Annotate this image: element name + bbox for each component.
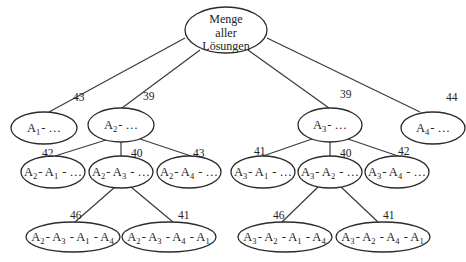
cost-label-a3a2a1a4: 46 bbox=[273, 209, 285, 221]
edge-a3a2-to-a3a2a4a1 bbox=[341, 187, 378, 222]
node-a3a4: A3 - A4 - … bbox=[365, 156, 429, 188]
node-label: A2 - A3 - … bbox=[92, 165, 150, 181]
edge-a3-to-a3a1 bbox=[263, 139, 312, 156]
node-a2a1: A2 - A1 - … bbox=[21, 156, 85, 188]
root-label-line: Menge bbox=[209, 12, 242, 26]
cost-label-a3a1: 41 bbox=[254, 145, 266, 157]
cost-label-a2: 39 bbox=[143, 90, 155, 102]
node-a3a2a1a4: A3 - A2 - A1 - A4 bbox=[238, 222, 332, 252]
node-label: A2 - A3 - A1 - A4 bbox=[31, 230, 114, 246]
edge-a2a3-to-a2a3a4a1 bbox=[131, 187, 173, 222]
node-label: A3 - … bbox=[313, 118, 347, 134]
node-label: A3 - A2 - A1 - A4 bbox=[243, 230, 326, 246]
cost-label-a2a3a4a1: 41 bbox=[178, 209, 190, 221]
root-label-line: Lösungen bbox=[202, 39, 249, 53]
cost-label-a3a4: 42 bbox=[398, 145, 410, 157]
node-label: A1 - … bbox=[27, 121, 61, 137]
node-label: A3 - A4 - … bbox=[368, 165, 426, 181]
node-a3a2: A3 - A2 - … bbox=[298, 156, 362, 188]
node-root: MengeallerLösungen bbox=[185, 7, 267, 53]
edge-a2-to-a2a4 bbox=[140, 139, 191, 156]
cost-label-a3: 39 bbox=[340, 88, 352, 100]
edge-a2-to-a2a1 bbox=[55, 140, 106, 156]
cost-label-a2a3a1a4: 46 bbox=[70, 209, 82, 221]
cost-label-a2a3: 40 bbox=[131, 147, 143, 159]
node-a3a2a4a1: A3 - A2 - A4 - A1 bbox=[336, 222, 430, 252]
node-label: A3 - A1 - … bbox=[234, 165, 292, 181]
cost-label-a3a2a4a1: 41 bbox=[383, 209, 395, 221]
edge-a3a2-to-a3a2a1a4 bbox=[282, 187, 318, 222]
node-a2a3a4a1: A2 - A3 - A4 - A1 bbox=[122, 222, 216, 252]
node-label: A4 - … bbox=[416, 121, 450, 137]
node-label: A2 - A4 - … bbox=[160, 165, 218, 181]
node-label: A2 - … bbox=[104, 118, 138, 134]
cost-label-a2a4: 43 bbox=[193, 147, 205, 159]
cost-label-a4: 44 bbox=[446, 91, 458, 103]
edge-root-to-a2 bbox=[122, 50, 200, 108]
edge-root-to-a3 bbox=[248, 50, 329, 108]
node-label: A2 - A1 - … bbox=[24, 165, 82, 181]
root-label-line: aller bbox=[215, 26, 236, 40]
node-a2a3: A2 - A3 - … bbox=[89, 156, 153, 188]
edge-root-to-a1 bbox=[49, 38, 185, 112]
cost-label-a3a2: 40 bbox=[340, 147, 352, 159]
node-a4: A4 - … bbox=[401, 112, 465, 144]
solution-tree-diagram: MengeallerLösungenA1 - …A2 - …A3 - …A4 -… bbox=[0, 0, 466, 262]
node-label: A3 - A2 - A4 - A1 bbox=[341, 230, 424, 246]
node-label: A3 - A2 - … bbox=[301, 165, 359, 181]
node-a2: A2 - … bbox=[88, 108, 154, 142]
cost-label-a2a1: 42 bbox=[42, 147, 54, 159]
node-a1: A1 - … bbox=[11, 112, 77, 144]
edge-root-to-a4 bbox=[267, 38, 420, 112]
edge-a3-to-a3a4 bbox=[348, 139, 398, 156]
node-a3a1: A3 - A1 - … bbox=[231, 156, 295, 188]
node-a2a3a1a4: A2 - A3 - A1 - A4 bbox=[26, 222, 120, 252]
node-a2a4: A2 - A4 - … bbox=[157, 156, 221, 188]
node-label: A2 - A3 - A4 - A1 bbox=[127, 230, 210, 246]
cost-label-a1: 43 bbox=[73, 91, 85, 103]
node-a3: A3 - … bbox=[298, 108, 362, 142]
